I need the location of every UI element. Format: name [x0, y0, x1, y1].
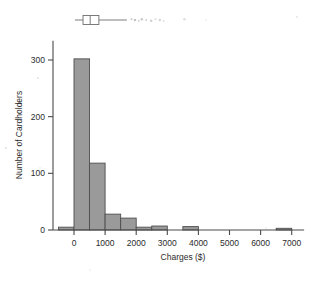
x-tick-label: 2000: [127, 238, 146, 248]
x-tick-label: 7000: [282, 238, 301, 248]
boxplot-outlier-point: [155, 18, 157, 20]
scan-speck: [37, 77, 39, 79]
boxplot-outlier-point: [131, 18, 133, 20]
x-tick-label: 1000: [96, 238, 115, 248]
histogram-bar: [121, 218, 137, 230]
boxplot-outlier-point: [145, 19, 147, 21]
y-tick-label: 200: [31, 112, 45, 122]
y-tick-label: 0: [40, 225, 45, 235]
scan-speck: [117, 246, 118, 247]
boxplot-box: [83, 16, 99, 25]
scan-speck: [205, 19, 207, 21]
x-tick-label: 4000: [189, 238, 208, 248]
histogram-bar: [74, 59, 90, 230]
x-tick-label: 5000: [220, 238, 239, 248]
boxplot-outlier-point: [138, 20, 140, 22]
x-tick-label: 0: [72, 238, 77, 248]
y-axis-label: Number of Cardholders: [14, 91, 24, 179]
y-tick-label: 300: [31, 55, 45, 65]
histogram-figure: 010020030001000200030004000500060007000 …: [0, 0, 312, 285]
histogram-bar: [152, 226, 168, 230]
x-tick-label: 6000: [251, 238, 270, 248]
y-tick-label: 100: [31, 168, 45, 178]
scan-speck: [89, 269, 91, 271]
boxplot-outlier-point: [134, 19, 137, 22]
boxplot-outlier-point: [150, 20, 153, 23]
scan-speck: [5, 147, 7, 149]
boxplot-outlier-point: [141, 18, 144, 21]
boxplot-outlier-point: [159, 19, 162, 22]
x-tick-label: 3000: [158, 238, 177, 248]
x-axis-label: Charges ($): [161, 252, 206, 262]
scan-speck: [265, 227, 266, 228]
boxplot-outlier-point: [183, 18, 186, 21]
histogram-bar: [90, 163, 106, 230]
histogram-bar: [105, 214, 121, 230]
scan-speck: [296, 16, 298, 18]
scan-speck: [39, 167, 41, 169]
boxplot-outlier-point: [163, 20, 165, 22]
